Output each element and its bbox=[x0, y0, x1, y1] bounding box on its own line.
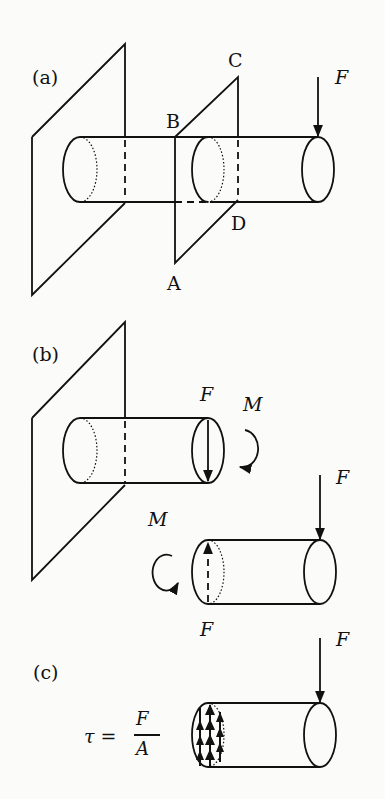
formula-lhs: τ = bbox=[84, 727, 116, 746]
shear-stress-arrows bbox=[196, 704, 224, 767]
point-label-c: C bbox=[228, 51, 243, 70]
panel-label-b: (b) bbox=[32, 345, 59, 364]
panel-label-c: (c) bbox=[33, 663, 58, 682]
point-label-d: D bbox=[231, 214, 246, 233]
formula-numerator: F bbox=[136, 708, 149, 729]
panel-label-a: (a) bbox=[32, 68, 58, 87]
force-label-c: F bbox=[336, 630, 349, 649]
point-label-a: A bbox=[167, 274, 181, 293]
moment-arrow-bottom bbox=[153, 555, 178, 591]
cut-plane-abcd bbox=[175, 77, 238, 263]
force-label-b-right: F bbox=[336, 468, 349, 487]
moment-label-b-top: M bbox=[243, 395, 262, 414]
fraction-bar bbox=[134, 734, 160, 736]
formula-denominator: A bbox=[136, 738, 149, 759]
shear-stress-diagram: (a) C B D A F (b) F M F M F (c) F τ = F … bbox=[0, 0, 385, 799]
cylinder-b-right bbox=[192, 540, 336, 604]
force-label-b-top: F bbox=[200, 385, 213, 404]
moment-arrow-top bbox=[240, 430, 258, 467]
force-label-b-bottom: F bbox=[200, 620, 213, 639]
force-label-a: F bbox=[335, 68, 348, 87]
moment-label-b-bottom: M bbox=[148, 510, 167, 529]
cylinder-a bbox=[63, 137, 334, 202]
cylinder-b-left bbox=[63, 418, 224, 483]
point-label-b: B bbox=[166, 112, 180, 131]
